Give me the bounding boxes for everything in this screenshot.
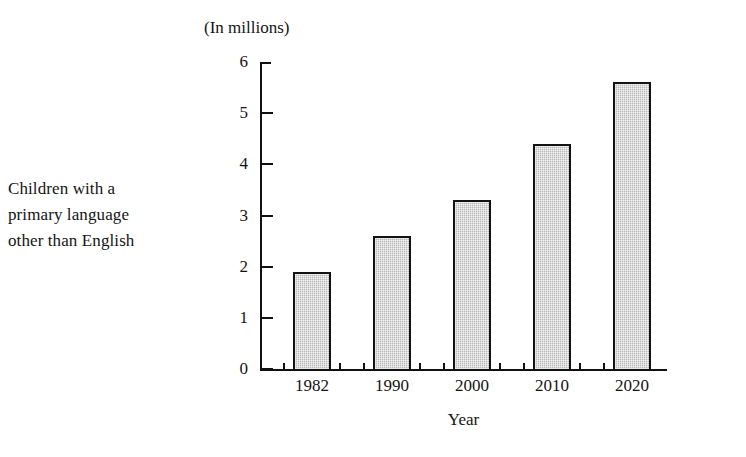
bar (613, 82, 651, 371)
x-axis-tick (339, 363, 341, 370)
chart-side-label-line-2: primary language (8, 202, 188, 228)
y-axis-top-cap (260, 62, 271, 64)
bar (533, 144, 571, 371)
y-axis-tick-label: 1 (196, 309, 248, 326)
x-axis-title: Year (260, 410, 667, 430)
x-axis-tick-label: 2000 (432, 376, 512, 396)
y-axis-tick-label: 4 (196, 155, 248, 172)
x-axis-tick-label: 1990 (352, 376, 432, 396)
chart-side-label: Children with a primary language other t… (8, 176, 188, 254)
x-axis-tick (443, 363, 445, 370)
x-axis-tick-label: 2010 (512, 376, 592, 396)
x-axis-tick-label: 1982 (272, 376, 352, 396)
y-axis-tick-label: 3 (196, 207, 248, 224)
bar (453, 200, 491, 371)
y-axis-tick (262, 215, 273, 217)
plot-area: 6543210 19821990200020102020 Year (196, 18, 716, 438)
x-axis-tick (523, 363, 525, 370)
x-axis-tick (499, 363, 501, 370)
y-axis-tick (262, 112, 273, 114)
y-axis-tick (262, 163, 273, 165)
bar (373, 236, 411, 371)
x-axis-tick (363, 363, 365, 370)
chart-side-label-line-1: Children with a (8, 176, 188, 202)
y-axis-tick (262, 368, 273, 370)
x-axis-tick (579, 363, 581, 370)
bar (293, 272, 331, 371)
x-axis-tick-label: 2020 (592, 376, 672, 396)
y-axis-tick-label: 6 (196, 53, 248, 70)
x-axis-tick (283, 363, 285, 370)
y-axis-tick-label: 0 (196, 360, 248, 377)
chart-side-label-line-3: other than English (8, 228, 188, 254)
y-axis-tick (262, 317, 273, 319)
y-axis-tick (262, 266, 273, 268)
bar-chart: (In millions) 6543210 198219902000201020… (196, 18, 716, 438)
x-axis-tick (603, 363, 605, 370)
x-axis-tick (419, 363, 421, 370)
y-axis-tick-label: 5 (196, 104, 248, 121)
y-axis-tick-label: 2 (196, 258, 248, 275)
